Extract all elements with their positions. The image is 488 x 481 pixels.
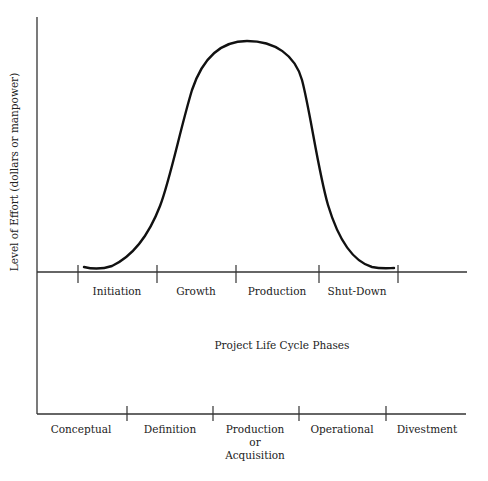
phase-label-conceptual: Conceptual [51,423,112,436]
lifecycle-diagram [0,0,488,481]
phases-title: Project Life Cycle Phases [215,339,350,351]
phase-label-shut-down: Shut-Down [328,285,387,298]
upper-phase-ticks [78,265,398,283]
production-line1: Production [225,423,285,436]
phase-label-production: Production [248,285,306,298]
phase-label-growth: Growth [176,285,216,298]
phase-label-operational: Operational [310,423,373,436]
phase-label-initiation: Initiation [93,285,142,298]
phase-label-production-acquisition: Production or Acquisition [225,423,285,462]
production-line3: Acquisition [225,449,285,462]
phase-label-divestment: Divestment [397,423,458,436]
effort-curve [84,41,394,269]
y-axis-label: Level of Effort (dollars or manpower) [8,73,20,271]
phase-label-definition: Definition [144,423,196,436]
production-line2: or [225,436,285,449]
